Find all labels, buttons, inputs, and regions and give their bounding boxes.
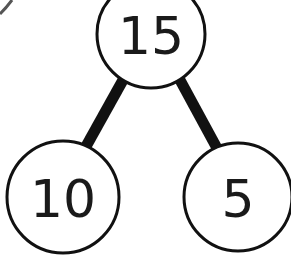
part-label-left: 10 [30, 169, 96, 229]
bond-line-left [84, 80, 123, 150]
bond-line-right [180, 80, 218, 150]
number-bond-diagram: 15 10 5 [0, 0, 291, 270]
part-node-left: 10 [7, 141, 119, 253]
corner-arc-fragment [0, 0, 12, 14]
whole-node: 15 [97, 0, 205, 88]
part-node-right: 5 [184, 143, 291, 251]
whole-label: 15 [118, 6, 184, 66]
part-label-right: 5 [221, 169, 254, 229]
